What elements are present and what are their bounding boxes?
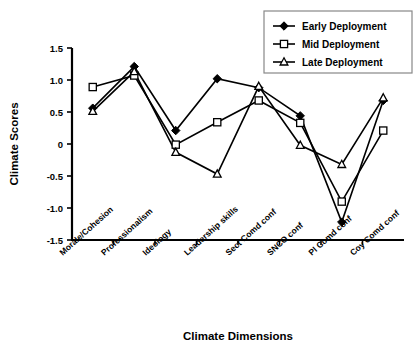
legend-marker-open-square [280,40,287,47]
y-tick-label: 0.5 [50,107,64,118]
data-point [297,119,304,126]
data-point [214,119,221,126]
y-tick-label: -0.5 [47,171,64,182]
series-line-late-deployment [93,72,384,174]
data-point [380,127,387,134]
y-tick-label: -1.5 [47,235,64,246]
legend-item-label: Early Deployment [302,21,387,32]
x-category-label: Ideology [140,226,173,257]
x-category-label: Coy Comd conf [348,208,401,258]
y-tick-label: -1.0 [47,203,63,214]
data-point [379,94,387,101]
y-tick-label: 1.0 [50,75,63,86]
y-axis-title: Climate Scores [8,102,20,185]
data-point [89,83,96,90]
chart-page: 1.51.00.50-0.5-1.0-1.5Morale/CohesionPro… [0,0,418,349]
y-tick-label: 1.5 [50,43,64,54]
x-category-label: Pl Comd conf [306,213,354,257]
legend-item-label: Late Deployment [302,57,383,68]
data-point [172,148,180,155]
data-point [255,97,262,104]
line-chart: 1.51.00.50-0.5-1.0-1.5Morale/CohesionPro… [0,0,418,349]
x-axis-title: Climate Dimensions [183,330,293,342]
y-tick-label: 0 [58,139,63,150]
legend-item-label: Mid Deployment [302,39,380,50]
data-point [338,198,345,205]
x-category-label: SNCO conf [265,220,305,258]
series-line-mid-deployment [93,76,384,202]
